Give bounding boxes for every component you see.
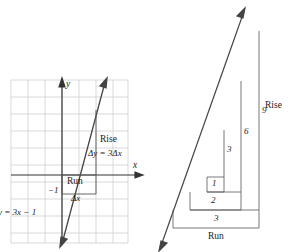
rise-label-right: Rise bbox=[265, 101, 282, 111]
triangle-1-rise-label: 3 bbox=[227, 145, 232, 154]
run-label-right: Run bbox=[208, 232, 224, 242]
y-intercept-tick-label: −1 bbox=[48, 186, 59, 195]
similar-triangles-panel: 3 1 6 2 9 3 Rise Run bbox=[144, 0, 288, 252]
graph-axes bbox=[11, 78, 143, 243]
line-y-equals-3x-minus-1 bbox=[60, 78, 107, 247]
graph-grid bbox=[11, 80, 128, 243]
x-axis-arrowhead bbox=[135, 172, 143, 178]
rise-expression-label: Δy = 3Δx bbox=[88, 149, 122, 158]
y-axis-arrowhead bbox=[59, 78, 65, 87]
triangle-1-run-label: 1 bbox=[212, 179, 217, 188]
diagonal-arrowhead-bottom bbox=[159, 241, 167, 251]
diagonal-line bbox=[159, 8, 245, 251]
rise-label: Rise bbox=[100, 135, 117, 145]
equation-label: y = 3x − 1 bbox=[0, 208, 36, 217]
figure-slope-rise-over-run: y x Rise Δy = 3Δx Run Δx −1 y = 3x − 1 bbox=[0, 0, 288, 252]
run-label: Run bbox=[67, 177, 83, 187]
run-expression-label: Δx bbox=[71, 194, 80, 203]
line-arrowhead-top bbox=[100, 78, 107, 88]
triangle-2-rise-label: 6 bbox=[244, 127, 249, 136]
line-arrowhead-bottom bbox=[60, 237, 67, 247]
y-axis-label: y bbox=[66, 80, 70, 90]
coordinate-graph-panel: y x Rise Δy = 3Δx Run Δx −1 y = 3x − 1 bbox=[0, 0, 144, 252]
triangle-2 bbox=[190, 81, 241, 210]
diagonal-arrowhead-top bbox=[237, 8, 245, 18]
triangle-2-run-label: 2 bbox=[211, 196, 216, 205]
x-axis-label: x bbox=[133, 161, 137, 171]
triangle-3-run-label: 3 bbox=[214, 214, 219, 223]
